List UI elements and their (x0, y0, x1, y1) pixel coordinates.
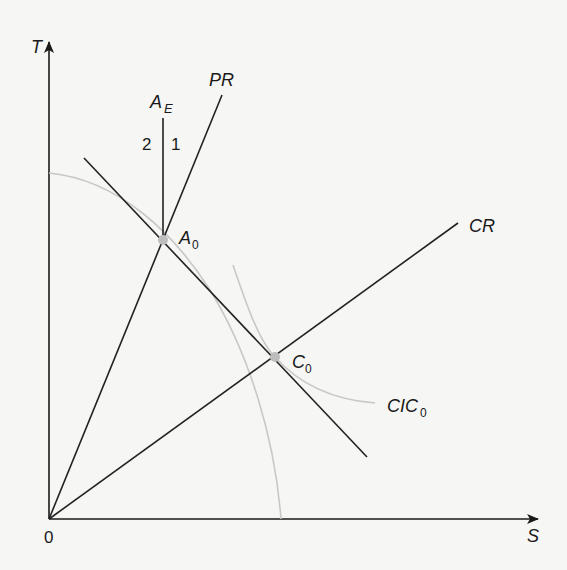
price-ratio-ray (49, 95, 222, 519)
cr-label: CR (469, 216, 495, 236)
c0-label-main: C (292, 352, 306, 372)
y-axis-label: T (31, 37, 44, 57)
origin-label: 0 (44, 528, 53, 547)
ae-label-sub: E (164, 101, 173, 116)
trade-diagram: T S 0 PR CR A E 2 1 A 0 C 0 CIC 0 (0, 0, 567, 570)
cic0-label: CIC 0 (387, 396, 427, 420)
ae-label-main: A (149, 92, 162, 112)
a0-label-sub: 0 (192, 238, 199, 252)
cic0-label-main: CIC (387, 396, 419, 416)
consumption-ray (49, 223, 458, 519)
c0-label-sub: 0 (305, 362, 312, 376)
point-c0 (270, 352, 280, 362)
region-1-label: 1 (171, 135, 180, 154)
a0-label-main: A (178, 228, 191, 248)
c0-label: C 0 (292, 352, 312, 376)
x-axis-label: S (527, 526, 539, 546)
budget-line (84, 158, 367, 457)
production-possibility-frontier (49, 173, 281, 519)
point-a0 (158, 235, 168, 245)
ae-label: A E (149, 92, 173, 116)
pr-label: PR (209, 70, 234, 90)
region-2-label: 2 (142, 135, 151, 154)
cic0-label-sub: 0 (420, 406, 427, 420)
a0-label: A 0 (178, 228, 199, 252)
